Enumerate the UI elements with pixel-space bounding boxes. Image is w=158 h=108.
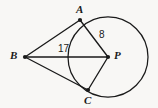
geometry-figure: A B C P 17 8 <box>0 0 158 108</box>
vertex-dot-b <box>23 55 27 59</box>
point-label-b: B <box>10 50 17 61</box>
measure-label-bp: 17 <box>58 44 69 54</box>
measure-label-ap: 8 <box>99 30 105 40</box>
segment-bc <box>25 57 88 90</box>
point-label-p: P <box>114 50 121 61</box>
point-label-c: C <box>84 95 91 106</box>
segment-ba <box>25 20 80 57</box>
figure-canvas <box>0 0 158 108</box>
vertex-dot-a <box>78 18 82 22</box>
point-label-a: A <box>76 4 83 15</box>
segment-cp <box>88 57 108 90</box>
vertex-dot-p <box>106 55 110 59</box>
vertex-dot-c <box>86 88 90 92</box>
